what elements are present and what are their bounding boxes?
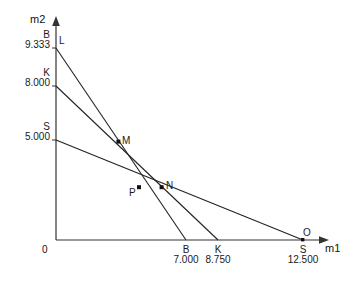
y-tick-K: K 8.000 xyxy=(0,68,50,88)
point-label-M: M xyxy=(122,136,130,146)
point-label-P: P xyxy=(129,188,136,198)
y-tick-B-value: 9.333 xyxy=(0,40,50,50)
x-axis xyxy=(56,236,329,244)
point-marker-M xyxy=(116,140,120,144)
x-tick-K-value: 8.750 xyxy=(193,255,243,265)
point-label-N: N xyxy=(166,181,173,191)
chart-figure: m2 m1 0 B 9.333 K 8.000 S 5.000 B 7.000 … xyxy=(0,0,349,287)
x-tick-S-value: 12.500 xyxy=(278,255,328,265)
y-tick-S: S 5.000 xyxy=(0,122,50,142)
plot-canvas xyxy=(0,0,349,287)
point-label-L: L xyxy=(59,36,65,46)
x-tick-S: S 12.500 xyxy=(278,245,328,265)
origin-label: 0 xyxy=(42,245,48,255)
series-line-S xyxy=(56,140,303,240)
y-axis-title-sub: 2 xyxy=(39,13,45,25)
x-axis-title-sub: 1 xyxy=(334,242,340,254)
point-marker-N xyxy=(160,185,164,189)
y-axis xyxy=(52,16,60,240)
y-axis-title: m2 xyxy=(30,14,45,24)
point-marker-P xyxy=(137,185,141,189)
y-tick-S-value: 5.000 xyxy=(0,132,50,142)
y-tick-K-value: 8.000 xyxy=(0,78,50,88)
y-tick-B: B 9.333 xyxy=(0,30,50,50)
series-line-B xyxy=(56,48,186,240)
y-axis-title-base: m xyxy=(30,13,39,25)
x-tick-K: K 8.750 xyxy=(193,245,243,265)
series-line-K xyxy=(56,86,218,240)
point-marker-O xyxy=(301,238,304,241)
point-label-O: O xyxy=(303,228,311,238)
